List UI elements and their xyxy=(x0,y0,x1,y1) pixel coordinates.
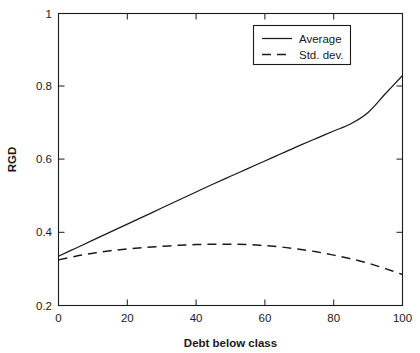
x-tick-label: 20 xyxy=(121,312,134,324)
x-tick-label: 80 xyxy=(327,312,340,324)
y-tick-label: 0.6 xyxy=(36,153,52,165)
x-tick-labels: 0 20 40 60 80 100 xyxy=(55,312,412,324)
y-tick-label: 1 xyxy=(46,8,52,20)
series-line-average xyxy=(59,76,403,257)
x-axis-title: Debt below class xyxy=(184,337,277,349)
y-tick-label: 0.8 xyxy=(36,80,52,92)
x-tick-label: 100 xyxy=(393,312,412,324)
legend-label-std-dev: Std. dev. xyxy=(299,49,344,61)
line-chart-canvas: 0 20 40 60 80 100 0.2 0.4 0.6 0.8 1 Debt… xyxy=(0,0,420,353)
chart-figure: 0 20 40 60 80 100 0.2 0.4 0.6 0.8 1 Debt… xyxy=(0,0,420,353)
legend-label-average: Average xyxy=(299,33,342,45)
x-tick-label: 60 xyxy=(259,312,272,324)
y-axis-title: RGD xyxy=(6,147,18,173)
x-tick-label: 0 xyxy=(55,312,61,324)
y-tick-label: 0.4 xyxy=(36,226,53,238)
y-tick-labels: 0.2 0.4 0.6 0.8 1 xyxy=(36,8,53,312)
x-tick-label: 40 xyxy=(190,312,203,324)
y-tick-label: 0.2 xyxy=(36,300,52,312)
chart-legend[interactable]: Average Std. dev. xyxy=(254,26,351,65)
series-line-std-dev xyxy=(59,244,403,274)
